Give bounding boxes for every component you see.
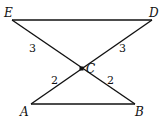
length-DC: 3 xyxy=(119,42,126,55)
label-C: C xyxy=(86,62,95,76)
geometry-diagram: E D C A B 3 3 2 2 xyxy=(0,0,162,125)
segment-EB xyxy=(12,20,135,104)
label-B: B xyxy=(134,105,144,119)
length-BC: 2 xyxy=(107,74,114,87)
length-EC: 3 xyxy=(29,42,36,55)
label-A: A xyxy=(19,105,29,119)
length-AC: 2 xyxy=(51,74,58,87)
point-C-marker xyxy=(80,67,84,71)
label-D: D xyxy=(148,6,159,20)
label-E: E xyxy=(3,6,13,20)
